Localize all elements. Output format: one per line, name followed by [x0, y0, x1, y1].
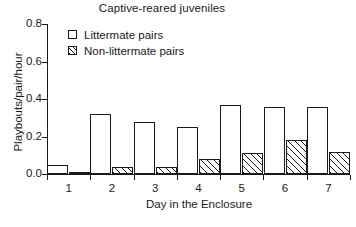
- y-tick-label: 0.6: [2, 56, 42, 68]
- x-tick-label: 5: [227, 183, 257, 195]
- chart-legend: Littermate pairsNon-littermate pairs: [68, 27, 184, 59]
- plot-area: 0.00.20.40.60.8 1234567 Littermate pairs…: [47, 24, 350, 174]
- x-tick-mark: [90, 175, 91, 180]
- bar-open-day-2: [90, 114, 111, 174]
- y-tick-label: 0.8: [2, 18, 42, 30]
- x-tick-label: 1: [54, 183, 84, 195]
- x-tick-mark: [134, 175, 135, 180]
- bar-hatched-day-4: [199, 159, 220, 174]
- x-tick-mark: [263, 175, 264, 180]
- bar-hatched-day-3: [156, 167, 177, 175]
- x-axis-line: [47, 174, 350, 175]
- legend-item: Littermate pairs: [68, 27, 184, 42]
- x-tick-mark: [177, 175, 178, 180]
- x-tick-label: 6: [270, 183, 300, 195]
- bar-hatched-day-5: [242, 153, 263, 174]
- bar-hatched-day-2: [112, 167, 133, 175]
- bar-hatched-day-7: [329, 152, 350, 175]
- x-tick-mark: [220, 175, 221, 180]
- bar-hatched-day-6: [286, 140, 307, 174]
- bar-open-day-4: [177, 127, 198, 174]
- open-square-icon: [68, 30, 77, 39]
- legend-label: Littermate pairs: [84, 29, 163, 41]
- bar-open-day-3: [134, 122, 155, 175]
- x-tick-mark: [307, 175, 308, 180]
- bar-open-day-1: [47, 165, 68, 174]
- legend-item: Non-littermate pairs: [68, 43, 184, 58]
- x-tick-mark: [47, 175, 48, 180]
- x-tick-label: 2: [97, 183, 127, 195]
- bar-open-day-7: [307, 107, 328, 175]
- x-tick-mark: [350, 175, 351, 180]
- bar-open-day-5: [220, 105, 241, 174]
- y-tick-label: 0.0: [2, 168, 42, 180]
- x-tick-label: 7: [313, 183, 343, 195]
- chart-title: Captive-reared juveniles: [52, 2, 272, 14]
- x-tick-label: 3: [140, 183, 170, 195]
- legend-label: Non-littermate pairs: [84, 45, 184, 57]
- chart-figure: Captive-reared juveniles Playbouts/pair/…: [0, 0, 356, 227]
- bar-open-day-6: [264, 107, 285, 175]
- y-tick-label: 0.4: [2, 93, 42, 105]
- bar-hatched-day-1: [69, 172, 90, 174]
- x-axis-label: Day in the Enclosure: [46, 198, 352, 210]
- y-tick-label: 0.2: [2, 131, 42, 143]
- x-tick-label: 4: [184, 183, 214, 195]
- hatched-square-icon: [68, 46, 77, 55]
